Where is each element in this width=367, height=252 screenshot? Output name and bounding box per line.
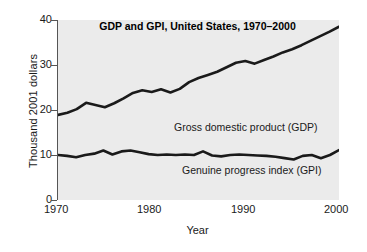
y-tick-label-30: 30 [30,59,52,70]
y-tick-label-10: 10 [30,149,52,160]
line-series-gpi [58,150,339,159]
x-tick-label-2000: 2000 [324,203,348,215]
chart-figure: Thousand 2001 dollars 40 30 20 10 0 Gros… [0,0,367,252]
series-annotation-gpi: Genuine progress index (GPI) [182,164,321,176]
x-tick-label-1990: 1990 [231,203,255,215]
y-tick-mark-0 [51,200,57,201]
series-annotation-gdp: Gross domestic product (GDP) [174,121,318,133]
chart-title: GDP and GPI, United States, 1970–2000 [70,20,325,32]
y-tick-label-20: 20 [30,104,52,115]
line-series-gdp [58,27,339,115]
x-tick-label-1970: 1970 [44,203,68,215]
y-tick-label-40: 40 [30,14,52,25]
plot-area: Gross domestic product (GDP) Genuine pro… [57,20,339,200]
x-axis-tick-labels: 1970 1980 1990 2000 [0,203,367,219]
x-tick-label-1980: 1980 [137,203,161,215]
x-axis-title: Year [57,224,338,236]
